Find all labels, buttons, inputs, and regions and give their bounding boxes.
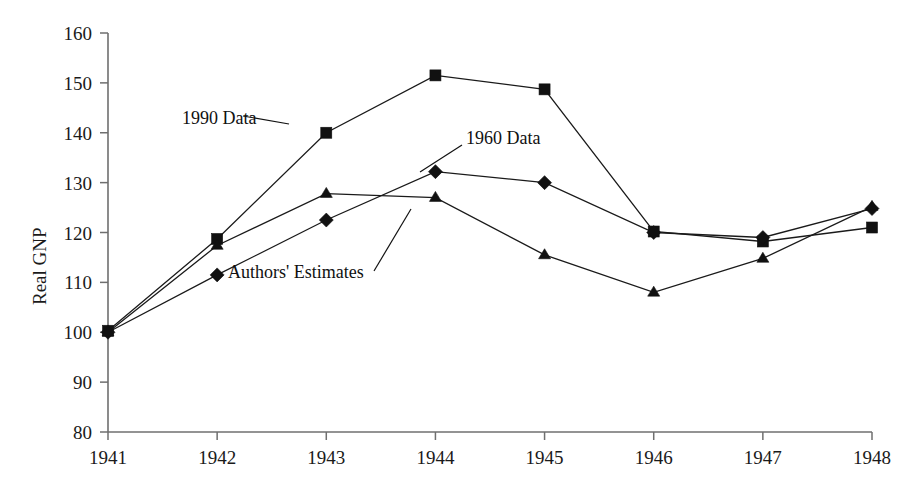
y-tick-label: 120	[64, 223, 93, 244]
y-tick-label: 110	[64, 272, 92, 293]
y-tick-label: 160	[64, 23, 93, 44]
y-axis-title: Real GNP	[29, 227, 50, 305]
series-line-triangle	[108, 194, 872, 333]
annotation-authors-estimates: Authors' Estimates	[228, 262, 364, 282]
data-point-triangle-1945	[539, 249, 551, 259]
x-tick-label: 1943	[307, 447, 345, 468]
data-point-diamond-1943	[319, 213, 333, 227]
y-tick-label: 150	[64, 73, 93, 94]
y-tick-label: 140	[64, 123, 93, 144]
leader-1960-data	[420, 145, 462, 172]
annotation-leaders	[243, 116, 462, 271]
x-tick-label: 1947	[744, 447, 782, 468]
annotation-1990-data: 1990 Data	[182, 108, 256, 128]
data-point-square-1948	[867, 222, 878, 233]
x-tick-label: 1948	[853, 447, 891, 468]
y-tick-label: 80	[73, 422, 92, 443]
data-point-diamond-1945	[538, 176, 552, 190]
x-tick-label: 1946	[635, 447, 673, 468]
data-point-square-1944	[430, 70, 441, 81]
y-tick-label: 130	[64, 173, 93, 194]
x-axis-ticks: 19411942194319441945194619471948	[89, 432, 891, 468]
line-chart: 8090100110120130140150160 19411942194319…	[0, 0, 906, 498]
data-point-triangle-1947	[757, 252, 769, 262]
x-tick-label: 1944	[416, 447, 455, 468]
x-tick-label: 1942	[198, 447, 236, 468]
axes	[108, 33, 872, 432]
x-tick-label: 1941	[89, 447, 127, 468]
y-tick-label: 100	[64, 322, 93, 343]
y-tick-label: 90	[73, 372, 92, 393]
data-point-triangle-1944	[429, 191, 441, 201]
data-point-diamond-1944	[428, 165, 442, 179]
data-point-diamond-1942	[210, 268, 224, 282]
x-tick-label: 1945	[526, 447, 564, 468]
series-line-diamond	[108, 172, 872, 333]
chart-figure: 8090100110120130140150160 19411942194319…	[0, 0, 906, 498]
data-point-triangle-1943	[320, 187, 332, 197]
data-point-square-1943	[321, 127, 332, 138]
data-point-square-1945	[539, 84, 550, 95]
leader-authors-estimates	[374, 209, 411, 271]
y-axis-ticks: 8090100110120130140150160	[64, 23, 109, 443]
annotation-1960-data: 1960 Data	[466, 128, 540, 148]
